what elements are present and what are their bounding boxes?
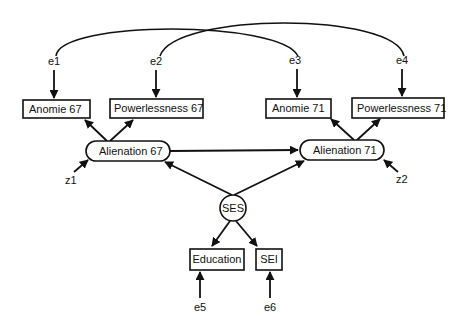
arrow-ses-alien67 <box>165 162 232 195</box>
sem-diagram: e1 e2 e3 e4 Anomie 67 Powerlessness 67 A… <box>0 0 471 325</box>
error-e3: e3 <box>289 54 301 66</box>
error-e4: e4 <box>396 54 408 66</box>
label-powerlessness-71: Powerlessness 71 <box>357 102 446 114</box>
label-alienation-67: Alienation 67 <box>99 145 163 157</box>
covariance-e2-e4 <box>160 23 404 56</box>
arrow-alien67-anomie67 <box>85 120 107 141</box>
arrow-alien71-anomie71 <box>331 119 354 140</box>
arrow-alien67-powerless67 <box>110 120 133 141</box>
covariance-e1-e3 <box>56 29 298 56</box>
arrow-ses-alien71 <box>234 161 304 195</box>
arrow-alien67-alien71 <box>170 150 298 151</box>
error-e5: e5 <box>194 301 206 313</box>
arrow-ses-education <box>212 221 230 246</box>
label-powerlessness-67: Powerlessness 67 <box>114 102 203 114</box>
label-anomie-67: Anomie 67 <box>29 103 82 115</box>
arrow-z2 <box>384 160 398 172</box>
label-sei: SEI <box>260 253 278 265</box>
arrow-z1 <box>74 160 88 172</box>
label-alienation-71: Alienation 71 <box>313 144 377 156</box>
arrow-ses-sei <box>236 221 257 246</box>
error-e2: e2 <box>150 55 162 67</box>
disturbance-z2: z2 <box>396 173 408 185</box>
label-anomie-71: Anomie 71 <box>272 102 325 114</box>
label-education: Education <box>193 253 242 265</box>
label-ses: SES <box>222 202 244 214</box>
arrow-alien71-powerless71 <box>357 119 380 140</box>
disturbance-z1: z1 <box>65 174 77 186</box>
error-e1: e1 <box>48 55 60 67</box>
error-e6: e6 <box>264 301 276 313</box>
